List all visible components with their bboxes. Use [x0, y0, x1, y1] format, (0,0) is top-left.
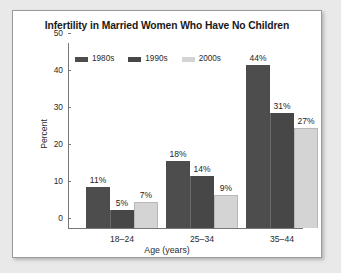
y-tick-mark: [68, 144, 71, 145]
y-tick-label: 10: [54, 176, 68, 186]
bar-rect: [270, 113, 294, 228]
bar-2000s-35–44[interactable]: 27%: [294, 43, 318, 228]
y-tick-label: 30: [54, 102, 68, 112]
chart-panel: Infertility in Married Women Who Have No…: [12, 10, 322, 258]
bar-1980s-25–34[interactable]: 18%: [166, 43, 190, 228]
y-tick-mark: [68, 181, 71, 182]
y-tick-label: 40: [54, 65, 68, 75]
bar-value-label: 18%: [169, 149, 186, 159]
bar-rect: [246, 65, 270, 228]
y-tick-label: 0: [58, 213, 68, 223]
bar-1990s-35–44[interactable]: 31%: [270, 43, 294, 228]
bar-1980s-18–24[interactable]: 11%: [86, 43, 110, 228]
bar-rect: [190, 176, 214, 228]
bar-value-label: 7%: [140, 190, 152, 200]
y-axis-label: Percent: [39, 119, 49, 149]
bar-group: 44%31%27%35–44: [246, 43, 318, 228]
bar-value-label: 31%: [273, 101, 290, 111]
y-tick-mark: [68, 33, 71, 34]
x-tick-label: 18–24: [110, 234, 134, 244]
x-axis-line: [68, 228, 303, 229]
x-tick-label: 25–34: [190, 234, 214, 244]
bar-2000s-25–34[interactable]: 9%: [214, 43, 238, 228]
bar-rect: [294, 128, 318, 228]
bar-value-label: 27%: [297, 116, 314, 126]
y-tick-label: 20: [54, 139, 68, 149]
bar-group: 18%14%9%25–34: [166, 43, 238, 228]
bar-value-label: 11%: [90, 175, 106, 185]
y-tick-label: 50: [54, 28, 68, 38]
bar-2000s-18–24[interactable]: 7%: [134, 43, 158, 228]
bar-group: 11%5%7%18–24: [86, 43, 158, 228]
bar-value-label: 9%: [220, 183, 232, 193]
y-tick-mark: [68, 218, 71, 219]
x-axis-label: Age (years): [13, 245, 321, 255]
bar-rect: [166, 161, 190, 228]
bar-1990s-25–34[interactable]: 14%: [190, 43, 214, 228]
bar-rect: [86, 187, 110, 228]
bar-rect: [134, 202, 158, 228]
bar-rect: [110, 210, 134, 229]
bar-1990s-18–24[interactable]: 5%: [110, 43, 134, 228]
bar-value-label: 14%: [193, 164, 210, 174]
bar-1980s-35–44[interactable]: 44%: [246, 43, 270, 228]
y-tick-mark: [68, 107, 71, 108]
plot-area: 0102030405011%5%7%18–2418%14%9%25–3444%3…: [68, 43, 299, 228]
y-tick-mark: [68, 70, 71, 71]
bar-value-label: 44%: [249, 53, 266, 63]
page-root: Infertility in Married Women Who Have No…: [0, 0, 341, 273]
bar-value-label: 5%: [116, 198, 128, 208]
x-tick-label: 35–44: [270, 234, 294, 244]
bar-rect: [214, 195, 238, 228]
